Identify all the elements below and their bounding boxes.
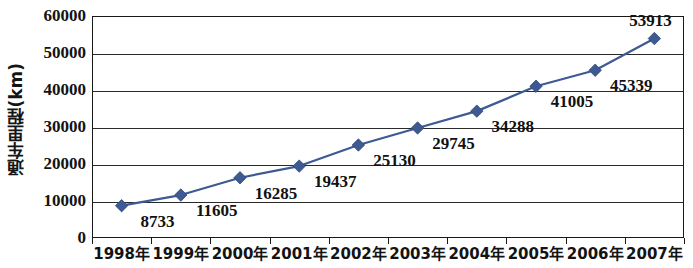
x-axis-tick-label: 2003年 <box>389 244 446 264</box>
x-axis-tick-label: 2007年 <box>626 244 683 264</box>
y-axis-tick-label: 10000 <box>44 191 87 211</box>
data-point-marker[interactable] <box>648 32 660 44</box>
y-axis-tick-label: 30000 <box>44 117 87 137</box>
x-axis-tick-label: 2000年 <box>212 244 269 264</box>
data-point-marker[interactable] <box>589 64 601 76</box>
data-point-marker[interactable] <box>115 199 127 211</box>
x-axis-tick-label: 2005年 <box>508 244 565 264</box>
x-axis-tick-label: 1999年 <box>152 244 209 264</box>
y-axis-title-text: 通车里程(km) <box>8 63 25 176</box>
data-point-marker[interactable] <box>352 139 364 151</box>
y-axis-tick-label: 60000 <box>44 6 87 26</box>
data-point-marker[interactable] <box>293 160 305 172</box>
y-axis-tick-label: 20000 <box>44 154 87 174</box>
data-point-marker[interactable] <box>471 105 483 117</box>
x-axis-tick-labels: 1998年1999年2000年2001年2002年2003年2004年2005年… <box>92 244 684 268</box>
y-axis-tick-labels: 0100002000030000400005000060000 <box>26 0 90 248</box>
data-point-marker[interactable] <box>530 80 542 92</box>
data-point-marker[interactable] <box>175 189 187 201</box>
series-line <box>122 39 655 206</box>
x-axis-tick-label: 2004年 <box>448 244 505 264</box>
data-point-marker[interactable] <box>234 172 246 184</box>
y-axis-tick-label: 40000 <box>44 80 87 100</box>
x-axis-tick-label: 2006年 <box>567 244 624 264</box>
data-point-marker[interactable] <box>411 122 423 134</box>
x-axis-tick-label: 2002年 <box>330 244 387 264</box>
y-axis-tick-label: 0 <box>78 228 87 248</box>
series-line-and-markers <box>92 16 684 238</box>
y-axis-tick-label: 50000 <box>44 43 87 63</box>
line-chart: 通车里程(km) 0100002000030000400005000060000… <box>0 0 693 268</box>
x-axis-tick-label: 1998年 <box>93 244 150 264</box>
x-axis-tick-label: 2001年 <box>271 244 328 264</box>
x-axis-tick <box>684 238 685 244</box>
